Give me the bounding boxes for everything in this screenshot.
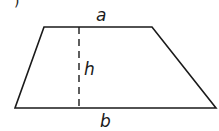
label-b: b (100, 111, 111, 131)
label-h: h (84, 59, 95, 79)
trapezoid-diagram: ) a h b (0, 0, 219, 131)
label-a: a (96, 5, 106, 25)
partial-corner-mark: ) (14, 0, 19, 9)
trapezoid-outline (15, 27, 216, 108)
